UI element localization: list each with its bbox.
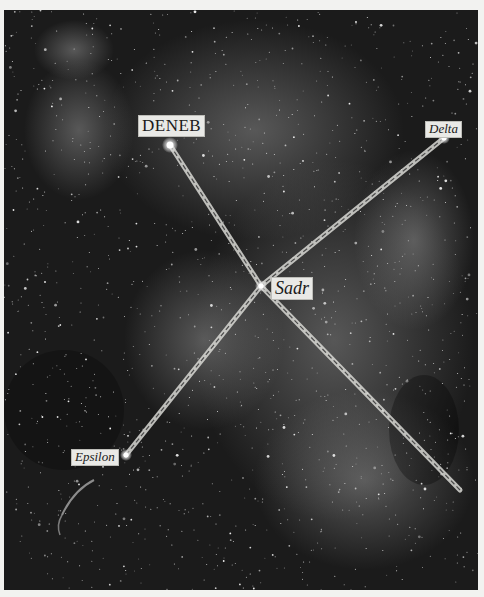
star-label-sadr: Sadr [271, 277, 313, 300]
star-label-epsilon: Epsilon [71, 449, 119, 466]
star-label-deneb: DENEB [138, 115, 205, 137]
star-field-photo: DENEB Delta Sadr Epsilon [4, 10, 478, 590]
milky-way-glow [4, 20, 474, 570]
star-label-delta: Delta [425, 121, 462, 138]
nebula-filament [62, 480, 94, 515]
sky-canvas [4, 10, 478, 590]
